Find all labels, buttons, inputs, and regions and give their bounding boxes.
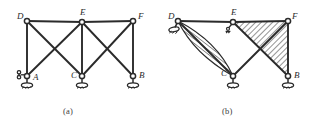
member-E-F — [82, 21, 133, 22]
member-E-F-b — [233, 21, 288, 22]
node-label-C-b: C — [221, 68, 228, 78]
panel-b: D E F C B — [167, 7, 300, 88]
node-label-F-b: F — [291, 11, 298, 21]
node-label-F-a: F — [137, 11, 144, 21]
truss-figure: D E F A C B — [0, 0, 309, 130]
joint-D — [24, 18, 29, 23]
node-label-E-a: E — [79, 7, 86, 17]
support-B — [127, 73, 138, 88]
node-label-D-b: D — [167, 11, 175, 21]
joint-F — [130, 18, 135, 23]
node-label-B-b: B — [294, 70, 300, 80]
node-label-C-a: C — [71, 70, 78, 80]
joint-E — [79, 19, 84, 24]
support-C — [76, 73, 87, 88]
support-B-b — [282, 73, 293, 88]
joint-E-b — [230, 19, 235, 24]
caption-panel-a: (a) — [63, 106, 73, 116]
panel-a: D E F A C B — [16, 7, 145, 88]
panel-a-members — [27, 21, 133, 76]
figure-container: D E F A C B — [0, 0, 309, 130]
member-D-E — [27, 21, 82, 22]
support-C-b — [227, 73, 238, 88]
joint-F-b — [285, 18, 290, 23]
caption-panel-b: (b) — [222, 106, 233, 116]
node-label-D-a: D — [16, 11, 24, 21]
member-D-E-b — [178, 21, 233, 22]
support-A — [21, 73, 32, 88]
node-label-B-a: B — [139, 70, 145, 80]
support-E-b — [226, 25, 232, 34]
node-label-A-a: A — [32, 72, 39, 82]
node-label-E-b: E — [230, 7, 237, 17]
